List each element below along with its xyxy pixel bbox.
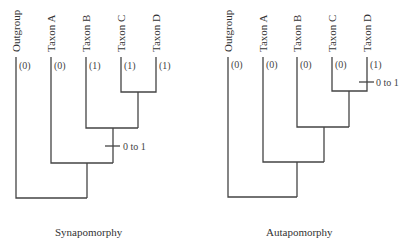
taxon-label-outgroup: Outgroup [10, 9, 22, 52]
tree-branches [16, 57, 156, 198]
taxon-label-d: Taxon D [361, 14, 373, 52]
synapomorphy-tree: Outgroup Taxon A Taxon B Taxon C Taxon D… [10, 9, 171, 238]
taxon-label-outgroup: Outgroup [222, 9, 234, 52]
state-c: (0) [335, 59, 347, 71]
change-label: 0 to 1 [123, 141, 146, 152]
state-a: (0) [54, 60, 66, 72]
cladogram-figure: Outgroup Taxon A Taxon B Taxon C Taxon D… [0, 0, 408, 250]
state-d: (1) [370, 59, 382, 71]
taxon-label-b: Taxon B [291, 15, 303, 52]
taxon-label-b: Taxon B [80, 15, 92, 52]
taxon-label-d: Taxon D [150, 14, 162, 52]
state-b: (0) [300, 59, 312, 71]
state-c: (1) [124, 60, 136, 72]
change-label: 0 to 1 [376, 77, 399, 88]
taxon-label-a: Taxon A [45, 15, 57, 52]
taxon-label-c: Taxon C [326, 15, 338, 52]
autapomorphy-tree: Outgroup Taxon A Taxon B Taxon C Taxon D… [222, 9, 399, 238]
tree-branches [228, 57, 367, 197]
caption-synapomorphy: Synapomorphy [55, 226, 123, 238]
taxon-label-c: Taxon C [115, 15, 127, 52]
state-a: (0) [266, 59, 278, 71]
caption-autapomorphy: Autapomorphy [266, 226, 333, 238]
state-outgroup: (0) [231, 59, 243, 71]
state-outgroup: (0) [19, 60, 31, 72]
state-d: (1) [159, 60, 171, 72]
taxon-label-a: Taxon A [257, 15, 269, 52]
state-b: (1) [89, 60, 101, 72]
